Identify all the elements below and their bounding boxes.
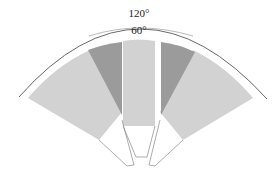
- center-pole: [123, 40, 155, 127]
- outer-angle-label: 120°: [129, 7, 150, 19]
- stator-diagram: 120° 60°: [0, 0, 277, 179]
- inner-angle-label: 60°: [131, 24, 146, 36]
